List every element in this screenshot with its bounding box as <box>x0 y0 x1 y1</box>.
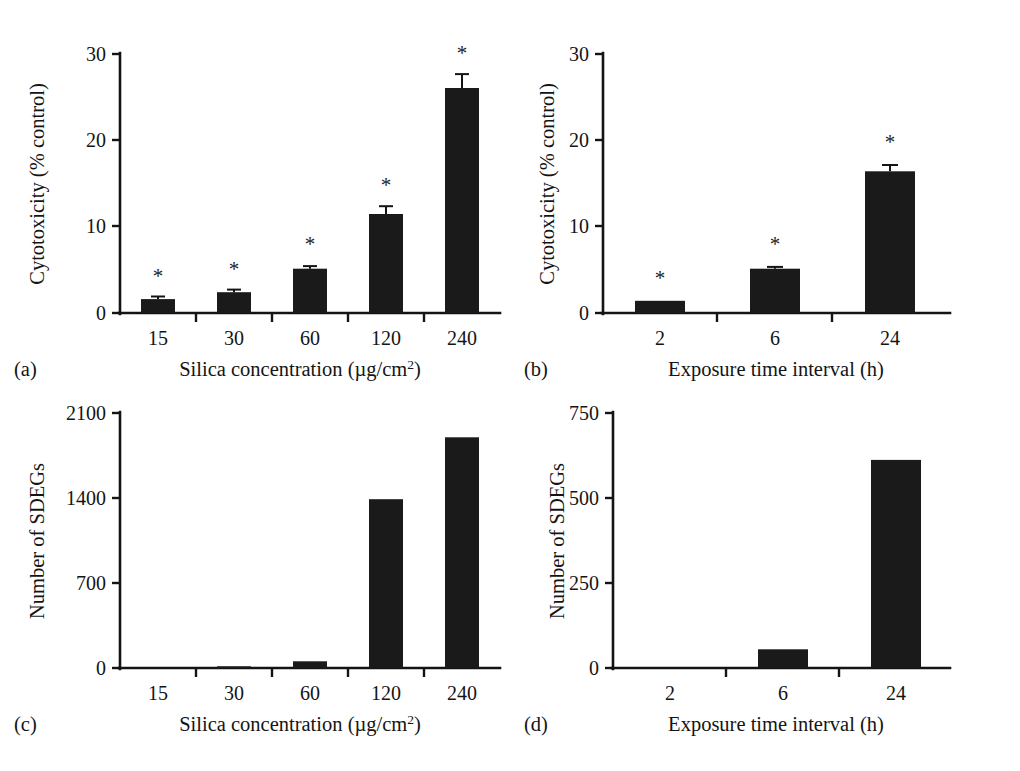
x-tick-label-60: 60 <box>300 682 320 704</box>
y-tick-label-1400: 1400 <box>66 487 106 509</box>
panel-d-bars <box>758 460 921 668</box>
x-axis-title-main: Silica concentration (µg/cm <box>179 358 407 381</box>
y-tick-label-2100: 2100 <box>66 402 106 424</box>
significance-star-240: * <box>457 41 468 65</box>
bar-6 <box>758 649 808 668</box>
x-tick-label-6: 6 <box>770 327 780 349</box>
panel-a-x-ticks: 15 30 60 120 240 <box>148 313 477 349</box>
bar-60 <box>293 661 327 668</box>
x-tick-label-2: 2 <box>655 327 665 349</box>
significance-star-120: * <box>381 173 392 197</box>
panel-c-x-ticks: 15 30 60 120 240 <box>148 668 477 704</box>
panel-letter-c: (c) <box>14 713 37 736</box>
bar-6 <box>750 269 800 313</box>
panel-c-y-ticks: 0 700 1400 2100 <box>66 402 120 679</box>
y-axis-title: Number of SDEGs <box>26 463 48 619</box>
y-tick-label-0: 0 <box>96 657 106 679</box>
bar-24 <box>871 460 921 668</box>
bar-240 <box>445 88 479 313</box>
bar-120 <box>369 499 403 668</box>
panel-a: 0 10 20 30 15 30 60 120 240 <box>0 0 510 385</box>
significance-star-6: * <box>770 232 781 256</box>
panel-b-x-ticks: 2 6 24 <box>655 313 900 349</box>
x-tick-label-15: 15 <box>148 327 168 349</box>
panel-d-y-ticks: 0 250 500 750 <box>569 402 613 679</box>
y-tick-label-0: 0 <box>579 302 589 324</box>
y-tick-label-30: 30 <box>86 43 106 65</box>
x-axis-title-main: Silica concentration (µg/cm <box>179 713 407 736</box>
bar-240 <box>445 437 479 668</box>
x-tick-label-120: 120 <box>371 682 401 704</box>
significance-star-15: * <box>153 264 164 288</box>
significance-star-60: * <box>305 232 316 256</box>
bar-30 <box>217 666 251 668</box>
y-tick-label-20: 20 <box>569 129 589 151</box>
x-axis-title: Silica concentration (µg/cm2) <box>179 712 421 737</box>
panel-a-plot: 0 10 20 30 15 30 60 120 240 <box>0 0 510 385</box>
significance-star-30: * <box>229 257 240 281</box>
panel-b: 0 10 20 30 2 6 24 <box>510 0 1020 385</box>
x-tick-label-6: 6 <box>778 682 788 704</box>
x-axis-title-superscript: 2 <box>407 357 414 372</box>
x-axis-title-superscript: 2 <box>407 712 414 727</box>
x-tick-label-2: 2 <box>665 682 675 704</box>
panel-b-y-ticks: 0 10 20 30 <box>569 43 603 324</box>
panel-c-bars <box>141 437 479 668</box>
x-axis-title: Silica concentration (µg/cm2) <box>179 357 421 382</box>
x-tick-label-240: 240 <box>447 682 477 704</box>
x-tick-label-120: 120 <box>371 327 401 349</box>
y-tick-label-250: 250 <box>569 572 599 594</box>
panel-c-plot: 0 700 1400 2100 15 30 60 120 240 <box>0 386 510 771</box>
panel-a-bars <box>141 88 479 313</box>
x-tick-label-240: 240 <box>447 327 477 349</box>
panel-a-labels: Cytotoxicity (% control) Silica concentr… <box>14 83 421 381</box>
x-tick-label-30: 30 <box>224 327 244 349</box>
x-axis-title: Exposure time interval (h) <box>668 358 884 381</box>
x-axis-title-main: Exposure time interval (h) <box>668 358 884 381</box>
panel-c-axes <box>119 412 500 669</box>
bar-30 <box>217 292 251 313</box>
x-axis-title-tail: ) <box>414 713 421 736</box>
y-tick-label-500: 500 <box>569 487 599 509</box>
y-axis-title: Number of SDEGs <box>546 463 568 619</box>
x-tick-label-24: 24 <box>880 327 900 349</box>
significance-star-24: * <box>885 130 896 154</box>
y-axis-title: Cytotoxicity (% control) <box>536 83 559 285</box>
panel-d: 0 250 500 750 2 6 24 Number of SDEGs E <box>510 386 1020 771</box>
significance-star-2: * <box>655 266 666 290</box>
panel-letter-d: (d) <box>524 713 548 736</box>
x-tick-label-60: 60 <box>300 327 320 349</box>
x-axis-title-main: Exposure time interval (h) <box>668 713 884 736</box>
panel-c: 0 700 1400 2100 15 30 60 120 240 <box>0 386 510 771</box>
y-tick-label-10: 10 <box>569 215 589 237</box>
bar-60 <box>293 269 327 313</box>
bar-24 <box>865 171 915 313</box>
x-axis-title-tail: ) <box>414 358 421 381</box>
x-tick-label-30: 30 <box>224 682 244 704</box>
bar-120 <box>369 214 403 313</box>
panel-d-plot: 0 250 500 750 2 6 24 Number of SDEGs E <box>510 386 1020 771</box>
panel-b-plot: 0 10 20 30 2 6 24 <box>510 0 1020 385</box>
panel-a-y-ticks: 0 10 20 30 <box>86 43 120 324</box>
x-axis-title: Exposure time interval (h) <box>668 713 884 736</box>
y-tick-label-0: 0 <box>589 657 599 679</box>
y-tick-label-0: 0 <box>96 302 106 324</box>
y-tick-label-750: 750 <box>569 402 599 424</box>
panel-d-x-ticks: 2 6 24 <box>665 668 906 704</box>
panel-a-significance-marks: * * * * * <box>153 41 468 288</box>
panel-a-error-bars <box>151 74 469 299</box>
y-axis-title: Cytotoxicity (% control) <box>26 83 49 285</box>
y-tick-label-30: 30 <box>569 43 589 65</box>
y-tick-label-10: 10 <box>86 215 106 237</box>
y-tick-label-20: 20 <box>86 129 106 151</box>
bar-2 <box>635 301 685 313</box>
x-tick-label-24: 24 <box>886 682 906 704</box>
y-tick-label-700: 700 <box>76 572 106 594</box>
panel-letter-b: (b) <box>524 358 548 381</box>
bar-15 <box>141 299 175 313</box>
panel-letter-a: (a) <box>14 358 37 381</box>
figure-root: 0 10 20 30 15 30 60 120 240 <box>0 0 1020 771</box>
x-tick-label-15: 15 <box>148 682 168 704</box>
